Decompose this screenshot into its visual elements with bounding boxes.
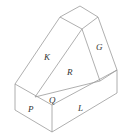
face-label-g: G — [96, 42, 103, 52]
face-label-r: R — [66, 67, 73, 77]
base-bottom-left-edge — [15, 110, 52, 132]
r-g-edge — [82, 29, 100, 81]
k-outer-edge — [15, 17, 60, 84]
face-label-l: L — [77, 103, 83, 113]
solid-figure-drawing: K G R P Q L — [0, 0, 125, 135]
solid-figure-diagram: K G R P Q L — [0, 0, 125, 135]
base-bottom-right-edge — [52, 93, 117, 132]
top-cap-edges — [60, 6, 98, 29]
face-label-q: Q — [49, 95, 56, 105]
base-top-right-edge — [52, 70, 117, 105]
face-label-k: K — [43, 52, 51, 62]
face-label-p: P — [27, 104, 34, 114]
base-back-right-edge — [100, 70, 117, 81]
